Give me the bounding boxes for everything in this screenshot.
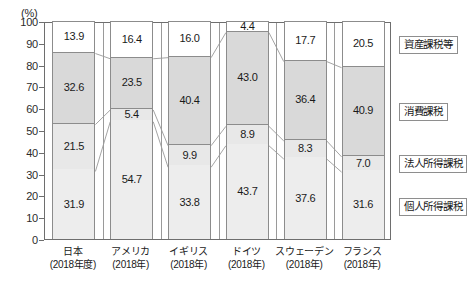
y-axis-tick-20: 20 [12,190,38,202]
plot-area: 31.921.532.613.954.75.423.516.433.89.940… [44,22,391,240]
bar-separator [103,23,104,239]
y-axis-tick-90: 90 [12,38,38,50]
segment-value-label: 5.4 [125,109,139,120]
bar-segment-income[interactable]: 31.6 [342,170,385,239]
bar-separator [219,23,220,239]
bar-segment-asset[interactable]: 20.5 [342,21,385,66]
bar-segment-consume[interactable]: 40.4 [168,56,211,144]
bar-segment-corporate[interactable]: 21.5 [52,123,95,170]
bar-segment-income[interactable]: 37.6 [284,157,327,239]
x-axis-label-フランス: フランス(2018年) [320,245,404,271]
bar-separator [276,23,277,239]
y-axis-tick-30: 30 [12,169,38,181]
segment-value-label: 21.5 [64,141,84,152]
bar-segment-asset[interactable]: 16.4 [110,21,153,57]
x-axis-country-name: イギリス [169,246,208,257]
segment-value-label: 37.6 [295,193,315,204]
y-axis-tick-40: 40 [12,147,38,159]
bar-segment-asset[interactable]: 17.7 [284,21,327,60]
bar-separator [334,23,335,239]
bar-segment-consume[interactable]: 32.6 [52,52,95,123]
bar-segment-corporate[interactable]: 9.9 [168,144,211,166]
y-axis-tick-10: 10 [12,212,38,224]
bar-アメリカ[interactable]: 54.75.423.516.4 [110,21,153,239]
bar-segment-income[interactable]: 54.7 [110,120,153,239]
bar-ドイツ[interactable]: 43.78.943.04.4 [226,21,269,239]
x-axis-country-name: ドイツ [232,246,261,257]
bar-segment-corporate[interactable]: 5.4 [110,108,153,120]
x-axis-country-name: 日本 [63,246,82,257]
bar-スウェーデン[interactable]: 37.68.336.417.7 [284,21,327,239]
segment-value-label: 8.3 [298,143,312,154]
segment-value-label: 23.5 [122,77,142,88]
segment-value-label: 40.9 [353,105,373,116]
segment-value-label: 33.8 [179,197,199,208]
segment-value-label: 31.9 [64,199,84,210]
segment-value-label: 9.9 [182,150,196,161]
x-axis-year: (2018年) [320,258,404,271]
y-axis-tick-50: 50 [12,125,38,137]
bar-separator [161,23,162,239]
segment-value-label: 16.0 [179,33,199,44]
segment-value-label: 31.6 [353,199,373,210]
legend-item-asset: 資産課税等 [399,36,458,54]
bar-segment-asset[interactable]: 4.4 [226,21,269,31]
segment-value-label: 43.0 [237,72,257,83]
bar-イギリス[interactable]: 33.89.940.416.0 [168,21,211,239]
bar-segment-income[interactable]: 33.8 [168,165,211,239]
bar-segment-corporate[interactable]: 8.3 [284,139,327,157]
segment-value-label: 8.9 [240,129,254,140]
bar-segment-asset[interactable]: 13.9 [52,21,95,51]
bar-segment-income[interactable]: 31.9 [52,169,95,239]
bar-segment-consume[interactable]: 23.5 [110,57,153,108]
segment-value-label: 20.5 [353,38,373,49]
y-axis-tick-60: 60 [12,103,38,115]
bar-segment-corporate[interactable]: 8.9 [226,124,269,143]
x-axis-country-name: アメリカ [111,246,150,257]
segment-value-label: 7.0 [356,158,370,169]
segment-value-label: 16.4 [122,34,142,45]
bar-segment-asset[interactable]: 16.0 [168,21,211,56]
legend-item-consume: 消費課税 [399,103,448,121]
segment-value-label: 32.6 [64,82,84,93]
y-axis-tick-70: 70 [12,81,38,93]
bar-segment-consume[interactable]: 40.9 [342,66,385,155]
segment-value-label: 43.7 [237,186,257,197]
segment-value-label: 36.4 [295,94,315,105]
segment-value-label: 4.4 [240,21,254,32]
bar-segment-income[interactable]: 43.7 [226,144,269,239]
bar-segment-corporate[interactable]: 7.0 [342,155,385,170]
segment-value-label: 13.9 [64,31,84,42]
y-axis-tick-mark [39,240,44,241]
y-axis-tick-80: 80 [12,60,38,72]
y-axis-tick-100: 100 [12,16,38,28]
legend-item-income: 個人所得課税 [399,198,467,216]
legend-item-corporate: 法人所得課税 [399,155,467,173]
bar-segment-consume[interactable]: 36.4 [284,60,327,139]
x-axis-country-name: フランス [343,246,382,257]
bar-segment-consume[interactable]: 43.0 [226,31,269,125]
bar-フランス[interactable]: 31.67.040.920.5 [342,21,385,239]
segment-value-label: 17.7 [295,35,315,46]
bar-日本[interactable]: 31.921.532.613.9 [52,21,95,239]
segment-value-label: 54.7 [122,174,142,185]
segment-value-label: 40.4 [179,95,199,106]
